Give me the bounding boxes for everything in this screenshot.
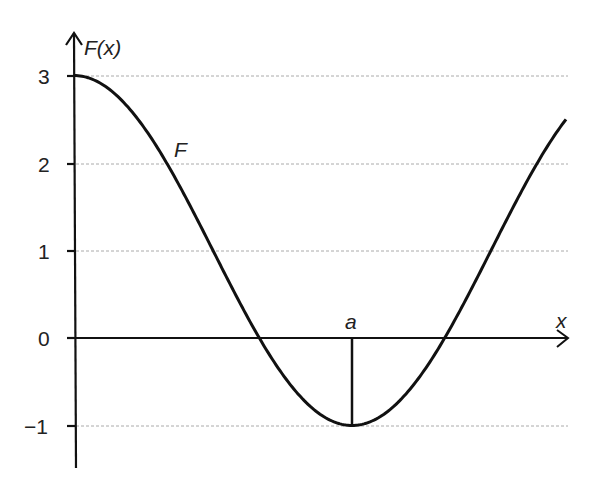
y-tick-0: 0 <box>38 327 50 350</box>
x-axis <box>74 330 568 347</box>
y-tick-2: 2 <box>38 153 50 176</box>
x-axis-label: x <box>555 309 568 332</box>
chart: 3 2 1 0 −1 F(x) x F a <box>0 0 597 488</box>
y-tick-minus-1: −1 <box>24 415 48 438</box>
y-tick-1: 1 <box>38 240 50 263</box>
gridlines <box>76 76 568 426</box>
point-a-label: a <box>345 310 357 333</box>
y-axis <box>66 33 82 468</box>
y-axis-label: F(x) <box>84 36 121 59</box>
curve-label: F <box>174 138 188 161</box>
y-tick-3: 3 <box>38 65 50 88</box>
